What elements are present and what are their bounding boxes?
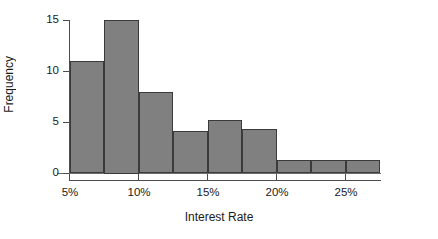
y-tick-label-5: 5 [53, 116, 59, 128]
histogram-bar [277, 160, 312, 173]
x-tick-15pct [207, 174, 208, 180]
histogram-bar [311, 160, 346, 173]
histogram-bar [242, 129, 277, 173]
histogram-bar [346, 160, 381, 173]
x-axis-title: Interest Rate [0, 210, 438, 224]
y-tick-5 [63, 122, 69, 123]
x-tick-label-25pct: 25% [334, 187, 357, 199]
histogram-bar [173, 131, 208, 174]
x-tick-label-10pct: 10% [127, 187, 150, 199]
y-tick-10 [63, 71, 69, 72]
x-tick-label-5pct: 5% [62, 187, 79, 199]
histogram-bar [70, 61, 105, 174]
x-tick-label-15pct: 15% [196, 187, 219, 199]
y-tick-15 [63, 20, 69, 21]
y-tick-label-0: 0 [53, 167, 59, 179]
histogram-bar [104, 20, 139, 174]
x-axis-line [69, 180, 381, 181]
x-tick-5pct [69, 174, 70, 180]
x-tick-25pct [345, 174, 346, 180]
y-axis-title: Frequency [2, 56, 16, 113]
histogram-figure: 15 10 5 0 5% 10% 15% 20% 25% Interest Ra… [0, 0, 438, 239]
histogram-bar [208, 120, 243, 173]
x-tick-label-20pct: 20% [265, 187, 288, 199]
plot-area: 15 10 5 0 5% 10% 15% 20% 25% [0, 0, 438, 239]
y-tick-label-10: 10 [46, 65, 59, 77]
x-tick-20pct [276, 174, 277, 180]
histogram-bar [139, 92, 174, 174]
x-tick-10pct [138, 174, 139, 180]
y-tick-label-15: 15 [46, 14, 59, 26]
